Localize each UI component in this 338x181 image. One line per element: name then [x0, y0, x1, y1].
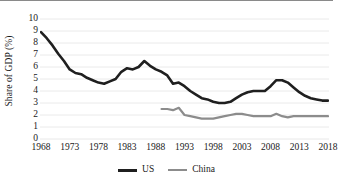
y-axis-title: Share of GDP (%) [0, 1, 18, 141]
legend-label: China [192, 165, 215, 175]
legend-item-us[interactable]: US [118, 165, 154, 175]
x-axis-tick: 1993 [175, 143, 194, 153]
y-axis-tick: 6 [33, 62, 38, 72]
y-axis-tick: 1 [33, 122, 38, 132]
y-axis-tick-labels: 012345678910 [18, 11, 40, 147]
chart-legend: USChina [0, 161, 333, 179]
x-axis-tick: 1968 [32, 143, 51, 153]
series-line-china [162, 108, 328, 119]
legend-swatch-icon [168, 169, 187, 172]
line-chart-svg [40, 11, 329, 147]
y-axis-tick: 3 [33, 98, 38, 108]
plot-area [40, 11, 329, 147]
y-axis-title-text: Share of GDP (%) [4, 35, 14, 106]
x-axis-tick: 2008 [261, 143, 280, 153]
y-axis-tick: 4 [33, 86, 38, 96]
y-axis-tick: 7 [33, 50, 38, 60]
legend-label: US [142, 165, 154, 175]
x-axis-tick: 1983 [118, 143, 137, 153]
x-axis-tick: 1978 [89, 143, 108, 153]
x-axis-tick: 1988 [146, 143, 165, 153]
y-axis-tick: 9 [33, 26, 38, 36]
legend-swatch-icon [118, 169, 137, 172]
x-axis-tick: 1998 [204, 143, 223, 153]
x-axis-tick-labels: 1968197319781983198819931998200320082013… [40, 143, 333, 157]
legend-item-china[interactable]: China [168, 165, 215, 175]
y-axis-tick: 10 [29, 14, 39, 24]
x-axis-tick: 2003 [232, 143, 251, 153]
y-axis-tick: 8 [33, 38, 38, 48]
plot-wrapper: 012345678910 [18, 11, 333, 147]
x-axis-tick: 1973 [60, 143, 79, 153]
y-axis-tick: 2 [33, 110, 38, 120]
x-axis-tick: 2018 [319, 143, 338, 153]
x-axis-tick: 2013 [290, 143, 309, 153]
y-axis-tick: 5 [33, 74, 38, 84]
